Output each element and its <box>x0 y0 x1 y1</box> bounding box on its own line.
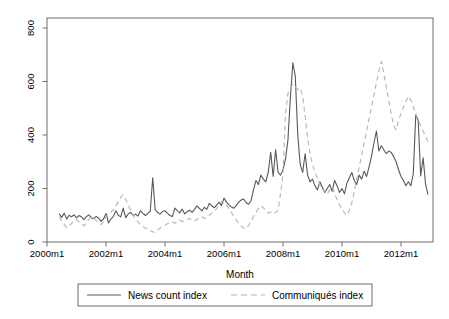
legend-label-communiques: Communiqués index <box>272 290 363 301</box>
legend-label-news: News count index <box>128 290 207 301</box>
x-axis: 2000m12002m12004m12006m12008m12010m12012… <box>30 242 418 259</box>
x-tick-label: 2008m1 <box>266 248 300 259</box>
chart-figure: 0200400600800 2000m12002m12004m12006m120… <box>0 0 449 319</box>
x-tick-label: 2006m1 <box>207 248 241 259</box>
x-tick-label: 2012m1 <box>384 248 418 259</box>
y-axis: 0200400600800 <box>25 20 47 245</box>
x-tick-label: 2010m1 <box>325 248 359 259</box>
x-tick-label: 2002m1 <box>89 248 123 259</box>
line-chart: 0200400600800 2000m12002m12004m12006m120… <box>0 0 449 319</box>
x-tick-label: 2000m1 <box>30 248 64 259</box>
plot-box <box>47 18 433 242</box>
series-lines <box>59 61 428 232</box>
series-line-news <box>59 63 428 223</box>
y-tick-label: 200 <box>25 181 36 197</box>
y-tick-label: 0 <box>25 239 36 244</box>
y-tick-label: 400 <box>25 127 36 143</box>
y-tick-label: 800 <box>25 20 36 36</box>
x-tick-label: 2004m1 <box>148 248 182 259</box>
legend: News count index Communiqués index <box>78 284 372 306</box>
y-tick-label: 600 <box>25 74 36 90</box>
x-axis-title: Month <box>226 269 254 280</box>
